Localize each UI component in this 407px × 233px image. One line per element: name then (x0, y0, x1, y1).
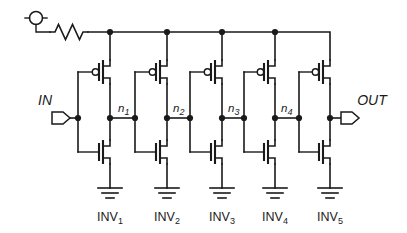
pmos-transistor (78, 60, 110, 84)
junction-dot (219, 115, 225, 121)
node-labels: n1 n2 n3 n4 (118, 102, 292, 117)
nmos-transistor (299, 140, 330, 164)
output-port-label: OUT (357, 92, 388, 108)
circuit-diagram-figure: IN OUT n1 n2 n3 n4 (0, 0, 407, 233)
nmos-transistor (190, 140, 222, 164)
nmos-transistor (244, 140, 275, 164)
junction-dot (75, 115, 81, 121)
stage-label-inv2: INV2 (154, 210, 180, 226)
node-label-n1: n1 (118, 102, 129, 117)
nmos-transistor (78, 140, 110, 164)
junction-dot (272, 115, 278, 121)
stage-labels: INV1 INV2 INV3 INV4 INV5 (97, 210, 343, 226)
inverter-stage-3 (190, 32, 234, 198)
supply-terminal (25, 12, 50, 33)
ground-symbol (210, 188, 234, 198)
stage-label-inv5: INV5 (317, 210, 343, 226)
inverter-stage-5 (299, 60, 342, 198)
pmos-transistor (135, 60, 167, 84)
junction-dot (107, 115, 113, 121)
pmos-transistor (190, 60, 222, 84)
input-port-label: IN (38, 92, 53, 108)
junction-dot (296, 115, 302, 121)
ground-symbol (98, 188, 122, 198)
series-resistor (50, 25, 88, 40)
junction-dot (187, 115, 193, 121)
pmos-transistor (299, 60, 330, 84)
ground-symbol (318, 188, 342, 198)
nmos-transistor (135, 140, 167, 164)
junction-dot (132, 115, 138, 121)
ground-symbol (263, 188, 287, 198)
input-port[interactable]: IN (38, 92, 70, 124)
junction-dot (272, 29, 278, 35)
junction-dot (164, 29, 170, 35)
inverter-stage-1 (78, 32, 122, 198)
output-port[interactable]: OUT (341, 92, 388, 124)
stage-label-inv3: INV3 (209, 210, 235, 226)
junction-dot (107, 29, 113, 35)
junction-dot (164, 115, 170, 121)
ground-symbol (155, 188, 179, 198)
stage-label-inv1: INV1 (97, 210, 123, 226)
pmos-transistor (244, 60, 275, 84)
inverter-stage-4 (244, 32, 287, 198)
junction-dot (241, 115, 247, 121)
stage-label-inv4: INV4 (262, 210, 288, 226)
node-label-n4: n4 (281, 102, 292, 117)
node-label-n3: n3 (228, 102, 239, 117)
node-label-n2: n2 (173, 102, 184, 117)
supply-rail (88, 32, 330, 60)
inverter-stage-2 (135, 32, 179, 198)
junction-dot (219, 29, 225, 35)
junction-dot (327, 115, 333, 121)
junction-dots (75, 29, 333, 121)
circuit-schematic: IN OUT n1 n2 n3 n4 (0, 0, 407, 233)
